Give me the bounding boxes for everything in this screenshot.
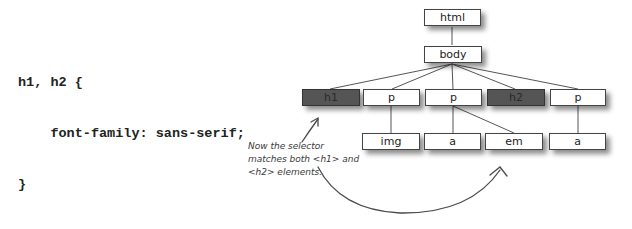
node-a: a xyxy=(424,133,481,150)
node-a: a xyxy=(549,133,606,150)
node-h1-highlighted: h1 xyxy=(302,89,360,106)
tree-edges xyxy=(0,0,632,229)
edge-body-p1 xyxy=(392,64,452,89)
node-em: em xyxy=(485,133,543,150)
node-img: img xyxy=(362,133,420,150)
edge-body-p3 xyxy=(452,64,578,89)
node-html: html xyxy=(424,9,481,26)
annotation-line: matches both <h1> and xyxy=(248,153,368,166)
edge-body-p2 xyxy=(452,64,453,89)
node-p: p xyxy=(425,89,482,106)
edge-body-h2 xyxy=(452,64,515,89)
node-body: body xyxy=(424,46,482,63)
arrow-to-h1-icon xyxy=(302,119,318,142)
annotation-line: <h2> elements. xyxy=(248,166,368,179)
node-h2-highlighted: h2 xyxy=(487,89,545,106)
node-p: p xyxy=(363,89,420,106)
edge-body-h1 xyxy=(330,64,452,89)
edge-p2-em xyxy=(453,106,514,133)
node-p: p xyxy=(550,89,606,106)
annotation-note: Now the selector matches both <h1> and <… xyxy=(248,140,368,179)
annotation-line: Now the selector xyxy=(248,140,368,153)
